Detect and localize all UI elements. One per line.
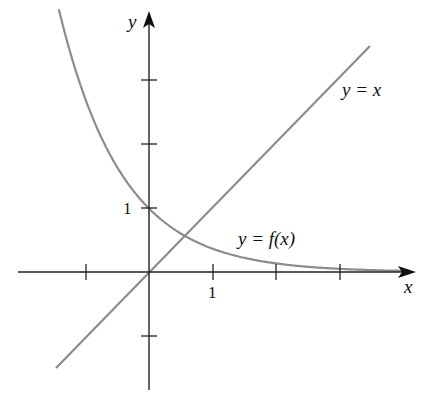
identity-line xyxy=(56,46,370,368)
function-curve xyxy=(59,9,408,271)
function-curve-label: y = f(x) xyxy=(236,228,295,250)
function-graph: y x 1 1 y = x y = f(x) xyxy=(0,0,425,397)
y-tick-label-1: 1 xyxy=(123,199,132,218)
x-tick-label-1: 1 xyxy=(208,283,217,302)
identity-line-label: y = x xyxy=(340,79,382,100)
x-axis-label: x xyxy=(403,276,413,297)
y-axis-label: y xyxy=(126,11,137,32)
